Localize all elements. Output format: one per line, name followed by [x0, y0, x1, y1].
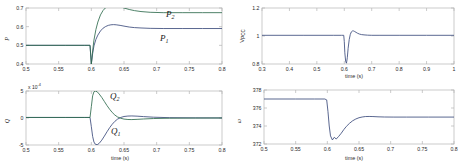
- svg-text:0.7: 0.7: [153, 147, 160, 153]
- svg-text:0.8: 0.8: [218, 147, 225, 153]
- svg-text:0.9: 0.9: [423, 66, 430, 72]
- reactive-ylabel: Q: [4, 113, 10, 129]
- svg-text:372: 372: [253, 141, 262, 147]
- svg-text:0: 0: [21, 115, 24, 121]
- svg-text:0.55: 0.55: [291, 146, 301, 152]
- svg-text:0.4: 0.4: [286, 66, 293, 72]
- voltage-xlabel: time (s): [324, 73, 384, 79]
- panel-power: P 0.50.550.60.650.70.750.80.40.50.60.7 P…: [0, 0, 232, 82]
- curve-label-q1: Q1: [111, 126, 121, 136]
- svg-text:0.75: 0.75: [417, 146, 427, 152]
- svg-text:5: 5: [21, 88, 24, 94]
- svg-text:1: 1: [453, 66, 456, 72]
- frequency-plot: 0.50.550.60.650.70.750.8372374376378: [232, 82, 463, 164]
- curve-label-p1: P1: [160, 33, 169, 43]
- svg-text:0.65: 0.65: [354, 146, 364, 152]
- svg-text:0.6: 0.6: [324, 146, 331, 152]
- svg-text:0.6: 0.6: [341, 66, 348, 72]
- svg-text:0.8: 0.8: [396, 66, 403, 72]
- figure-container: P 0.50.550.60.650.70.750.80.40.50.60.7 P…: [0, 0, 463, 164]
- svg-text:0.7: 0.7: [16, 5, 23, 11]
- frequency-xlabel: time (s): [324, 155, 384, 161]
- svg-text:0.75: 0.75: [184, 147, 194, 153]
- svg-text:1: 1: [257, 33, 260, 39]
- panel-voltage: VPCC 0.30.40.50.60.70.80.910.811.2 time …: [232, 0, 463, 82]
- svg-text:1.2: 1.2: [252, 5, 259, 11]
- curve-label-q2: Q2: [110, 91, 120, 101]
- svg-text:0.8: 0.8: [218, 66, 225, 72]
- svg-text:0.55: 0.55: [54, 147, 64, 153]
- curve-label-p2: P2: [166, 9, 175, 19]
- svg-text:0.4: 0.4: [16, 61, 23, 67]
- svg-text:0.8: 0.8: [252, 61, 259, 67]
- panel-frequency: ω 0.50.550.60.650.70.750.8372374376378 t…: [232, 82, 463, 164]
- svg-text:0.8: 0.8: [450, 146, 457, 152]
- voltage-plot: 0.30.40.50.60.70.80.910.811.2: [232, 0, 463, 82]
- svg-text:0.5: 0.5: [313, 66, 320, 72]
- svg-text:0.7: 0.7: [368, 66, 375, 72]
- voltage-ylabel: VPCC: [239, 20, 245, 52]
- power-plot: 0.50.550.60.650.70.750.80.40.50.60.7: [0, 0, 232, 82]
- svg-text:0.75: 0.75: [184, 66, 194, 72]
- svg-text:0.6: 0.6: [88, 66, 95, 72]
- svg-text:378: 378: [253, 87, 262, 93]
- reactive-xlabel: time (s): [90, 155, 150, 161]
- power-ylabel: P: [4, 31, 10, 47]
- panel-reactive: Q x 10-4 0.50.550.60.650.70.750.8-505 Q2…: [0, 82, 232, 164]
- svg-text:0.6: 0.6: [88, 147, 95, 153]
- svg-text:0.7: 0.7: [153, 66, 160, 72]
- svg-text:376: 376: [253, 105, 262, 111]
- svg-text:374: 374: [253, 123, 262, 129]
- frequency-ylabel: ω: [236, 112, 242, 130]
- svg-text:0.7: 0.7: [387, 146, 394, 152]
- svg-text:0.5: 0.5: [16, 42, 23, 48]
- reactive-exponent: x 10-4: [28, 83, 41, 90]
- svg-text:0.6: 0.6: [16, 24, 23, 30]
- svg-text:0.65: 0.65: [119, 147, 129, 153]
- svg-text:0.65: 0.65: [119, 66, 129, 72]
- svg-text:-5: -5: [19, 142, 24, 148]
- svg-text:0.55: 0.55: [54, 66, 64, 72]
